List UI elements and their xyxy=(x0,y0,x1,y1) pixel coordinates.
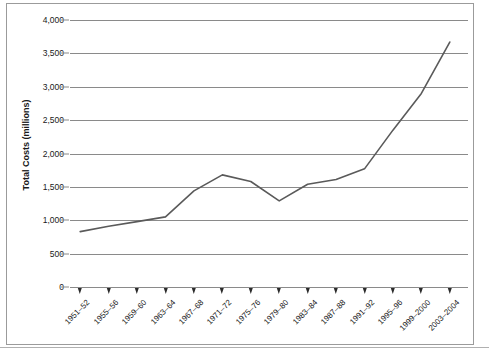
x-axis-tick-mark xyxy=(106,288,110,294)
x-axis-tick-mark xyxy=(78,288,82,294)
x-axis-tick-mark xyxy=(249,288,253,294)
data-series-line xyxy=(70,20,468,287)
x-axis-tick-mark xyxy=(163,288,167,294)
x-axis-tick-mark xyxy=(391,288,395,294)
plot-area: 4,0003,5003,0002,5002,0001,5001,0005000 … xyxy=(70,20,468,287)
x-axis-tick-mark xyxy=(362,288,366,294)
chart-figure: Total Costs (millions) 4,0003,5003,0002,… xyxy=(0,0,489,359)
y-axis-title: Total Costs (millions) xyxy=(21,75,31,215)
x-axis-tick-mark xyxy=(220,288,224,294)
x-axis-line xyxy=(70,287,468,288)
y-axis-tick-mark xyxy=(61,186,69,187)
x-axis-tick-mark xyxy=(192,288,196,294)
series-polyline xyxy=(80,42,450,232)
y-axis-tick-mark xyxy=(61,287,69,288)
y-axis-tick-mark xyxy=(61,86,69,87)
x-axis-tick-mark xyxy=(419,288,423,294)
x-axis-tick-mark xyxy=(135,288,139,294)
x-axis-tick-mark xyxy=(277,288,281,294)
y-axis-tick-mark xyxy=(61,220,69,221)
x-axis-tick-mark xyxy=(334,288,338,294)
y-axis-tick-mark xyxy=(61,153,69,154)
y-axis-tick-mark xyxy=(61,53,69,54)
x-axis-tick-mark xyxy=(448,288,452,294)
y-axis-tick-mark xyxy=(61,253,69,254)
x-axis-tick-mark xyxy=(305,288,309,294)
y-axis-tick-mark xyxy=(61,120,69,121)
figure-bottom-rule xyxy=(0,347,489,348)
y-axis-tick-mark xyxy=(61,20,69,21)
